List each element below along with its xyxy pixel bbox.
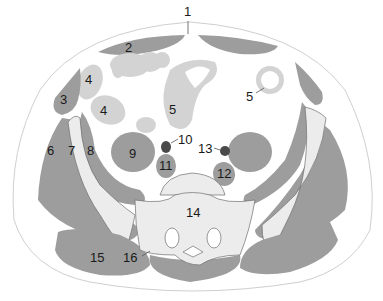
label-12: 12 <box>217 166 231 181</box>
label-2: 2 <box>125 40 132 55</box>
label-14: 14 <box>186 205 200 220</box>
label-5a: 5 <box>169 102 176 117</box>
label-6: 6 <box>47 143 54 158</box>
pelvis-cross-section: 1 2 3 4 4 5 5 6 7 8 9 10 11 12 13 14 15 … <box>0 0 383 301</box>
vessel-13 <box>220 146 230 156</box>
label-4a: 4 <box>85 72 92 87</box>
label-1: 1 <box>184 4 191 19</box>
label-15: 15 <box>90 250 104 265</box>
label-3: 3 <box>60 92 67 107</box>
label-9: 9 <box>129 146 136 161</box>
label-13: 13 <box>198 141 212 156</box>
label-5b: 5 <box>246 89 253 104</box>
vessel-10 <box>161 141 171 153</box>
label-8: 8 <box>87 143 94 158</box>
label-7: 7 <box>68 143 75 158</box>
label-10: 10 <box>178 132 192 147</box>
label-4b: 4 <box>100 103 107 118</box>
label-16: 16 <box>123 250 137 265</box>
label-11: 11 <box>159 158 173 173</box>
psoas-right <box>228 132 272 172</box>
